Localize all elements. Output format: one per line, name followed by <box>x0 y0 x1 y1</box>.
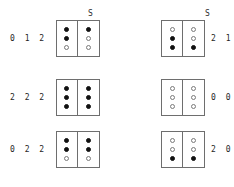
dot-filled-icon <box>170 156 175 161</box>
dot-empty-icon <box>64 45 69 50</box>
dot-filled-icon <box>191 45 196 50</box>
right-row-1-col-2 <box>183 21 204 56</box>
left-row-3-code: 0 2 2 <box>10 145 47 154</box>
right-row-2: 0 0 0 <box>161 79 234 116</box>
diagram-canvas: S 0 1 2 2 2 2 <box>0 0 234 187</box>
dot-empty-icon <box>191 104 196 109</box>
dot-filled-icon <box>86 86 91 91</box>
dot-empty-icon <box>191 147 196 152</box>
right-group-header-label: S <box>205 9 210 18</box>
dot-filled-icon <box>86 27 91 32</box>
right-row-2-code: 0 0 0 <box>211 93 234 102</box>
left-row-2-col-1 <box>57 80 78 115</box>
dot-filled-icon <box>64 104 69 109</box>
dot-empty-icon <box>170 104 175 109</box>
left-row-2-col-2 <box>78 80 99 115</box>
right-row-3-col-2 <box>183 132 204 167</box>
dot-empty-icon <box>191 138 196 143</box>
dot-empty-icon <box>170 95 175 100</box>
left-row-3-col-2 <box>78 132 99 167</box>
dot-filled-icon <box>86 138 91 143</box>
left-row-1-code: 0 1 2 <box>10 34 47 43</box>
dot-filled-icon <box>86 147 91 152</box>
dot-empty-icon <box>64 156 69 161</box>
right-row-3-col-1 <box>162 132 183 167</box>
left-row-3: 0 2 2 <box>10 131 100 168</box>
dot-empty-icon <box>191 36 196 41</box>
left-row-1-box <box>56 20 100 57</box>
right-row-1-code: 2 1 0 <box>211 34 234 43</box>
left-row-1-col-1 <box>57 21 78 56</box>
dot-filled-icon <box>64 86 69 91</box>
dot-filled-icon <box>86 104 91 109</box>
right-row-2-col-1 <box>162 80 183 115</box>
dot-empty-icon <box>191 86 196 91</box>
right-row-1-col-1 <box>162 21 183 56</box>
dot-empty-icon <box>86 36 91 41</box>
dot-filled-icon <box>64 138 69 143</box>
dot-filled-icon <box>86 95 91 100</box>
right-row-1: 2 1 0 <box>161 20 234 57</box>
left-row-2-code: 2 2 2 <box>10 93 47 102</box>
left-row-1-col-2 <box>78 21 99 56</box>
dot-filled-icon <box>64 95 69 100</box>
right-row-2-col-2 <box>183 80 204 115</box>
right-row-3-box <box>161 131 205 168</box>
right-row-3-code: 2 0 0 <box>211 145 234 154</box>
left-group-header-label: S <box>88 9 93 18</box>
dot-empty-icon <box>170 147 175 152</box>
dot-filled-icon <box>64 147 69 152</box>
dot-empty-icon <box>191 95 196 100</box>
dot-filled-icon <box>64 27 69 32</box>
right-row-1-box <box>161 20 205 57</box>
left-row-2-box <box>56 79 100 116</box>
dot-filled-icon <box>170 45 175 50</box>
left-row-3-col-1 <box>57 132 78 167</box>
dot-empty-icon <box>86 156 91 161</box>
left-row-3-box <box>56 131 100 168</box>
left-row-1: 0 1 2 <box>10 20 100 57</box>
dot-empty-icon <box>191 27 196 32</box>
right-row-2-box <box>161 79 205 116</box>
right-row-3: 2 0 0 <box>161 131 234 168</box>
dot-empty-icon <box>170 86 175 91</box>
dot-filled-icon <box>170 36 175 41</box>
dot-filled-icon <box>64 36 69 41</box>
dot-empty-icon <box>170 138 175 143</box>
left-row-2: 2 2 2 <box>10 79 100 116</box>
dot-empty-icon <box>86 45 91 50</box>
dot-empty-icon <box>170 27 175 32</box>
dot-filled-icon <box>191 156 196 161</box>
